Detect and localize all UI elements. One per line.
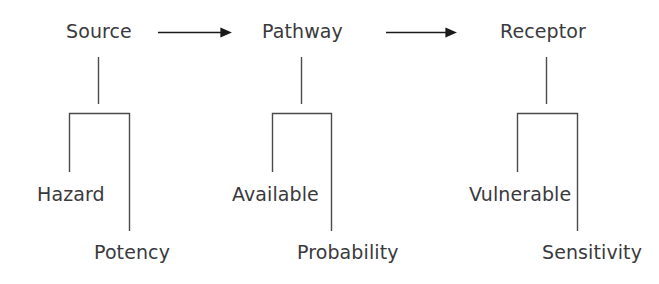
node-label-hazard: Hazard: [37, 185, 105, 204]
diagram-canvas: Source Hazard Potency Pathway Available …: [0, 0, 659, 284]
pathway-bracket-path: [273, 114, 332, 232]
node-label-probability: Probability: [297, 243, 399, 262]
source-bracket-path: [70, 114, 130, 232]
receptor-bracket-path: [518, 114, 578, 232]
node-label-potency: Potency: [94, 243, 170, 262]
node-label-sensitivity: Sensitivity: [542, 243, 642, 262]
node-label-available: Available: [232, 185, 319, 204]
node-label-vulnerable: Vulnerable: [469, 185, 571, 204]
node-label-receptor: Receptor: [500, 22, 586, 41]
node-label-pathway: Pathway: [262, 22, 343, 41]
node-label-source: Source: [66, 22, 132, 41]
